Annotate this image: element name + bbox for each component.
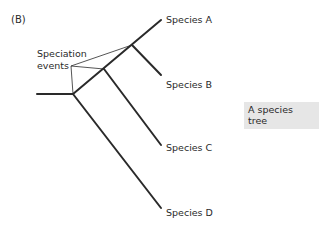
branch-to-species-c [104,69,161,145]
speciation-events-label: Speciation events [37,48,87,72]
panel-label: (B) [11,14,26,25]
branch-to-species-d [73,94,161,208]
species-d-label: Species D [166,207,213,218]
callout-line-1: Speciation [37,48,87,60]
caption-box: A species tree [244,102,319,129]
species-b-label: Species B [166,79,212,90]
species-a-label: Species A [166,14,212,25]
branch-to-species-b [132,45,161,75]
callout-line-2: events [37,60,87,72]
species-c-label: Species C [166,142,212,153]
